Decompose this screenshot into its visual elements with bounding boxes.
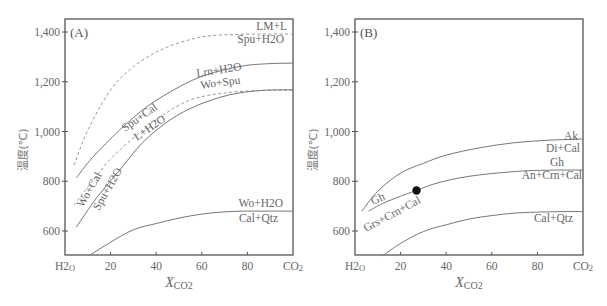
y-tick-label: 1,400 xyxy=(34,26,60,39)
x-symbol: X xyxy=(164,275,174,290)
x-symbol: X xyxy=(454,275,464,290)
panel-a-ticks: 6008001,0001,2001,400H2O20406080CO2 xyxy=(34,26,303,273)
panel-a: 6008001,0001,2001,400H2O20406080CO2 (A) … xyxy=(16,19,303,291)
x-tick-label: CO2 xyxy=(573,260,593,273)
label-gh-left: Gh xyxy=(369,190,387,207)
label-cal-qtz-a: Cal+Qtz xyxy=(239,212,278,224)
y-tick-label: 1,200 xyxy=(34,76,60,89)
x-tick-label: 40 xyxy=(150,260,162,272)
x-tick-label: 20 xyxy=(105,260,117,272)
y-tick-label: 1,000 xyxy=(324,126,350,139)
panel-b-label: (B) xyxy=(360,25,377,40)
label-cal-qtz-b: Cal+Qtz xyxy=(534,212,573,224)
panel-b-y-axis-label: 温度(℃) xyxy=(306,129,320,172)
x-tick-label: 20 xyxy=(395,260,407,272)
y-tick-label: 1,000 xyxy=(34,126,60,139)
x-tick-label: CO2 xyxy=(283,260,303,273)
panel-b-x-axis-label: XCO2 xyxy=(454,275,482,291)
y-tick-label: 600 xyxy=(333,225,351,237)
label-gh-right: Gh xyxy=(550,156,564,168)
x-tick-label: H2O xyxy=(345,260,365,273)
panel-b: 6008001,0001,2001,400H2O20406080CO2 (B) … xyxy=(306,19,593,291)
panel-a-y-axis-label: 温度(℃) xyxy=(16,129,30,172)
x-tick-label: 80 xyxy=(532,260,544,272)
label-lm-l: LM+L xyxy=(256,20,287,32)
label-ak: Ak xyxy=(564,130,578,142)
phase-diagram-figure: 6008001,0001,2001,400H2O20406080CO2 (A) … xyxy=(0,0,607,306)
y-tick-label: 800 xyxy=(333,175,351,187)
x-tick-label: 60 xyxy=(196,260,208,272)
label-spu-h2o-top: Spu+H2O xyxy=(237,33,284,46)
reaction-curve xyxy=(74,34,293,165)
x-tick-label: H2O xyxy=(55,260,75,273)
y-tick-label: 1,400 xyxy=(324,26,350,39)
panel-a-x-axis-label: XCO2 xyxy=(164,275,192,291)
y-tick-label: 800 xyxy=(43,175,61,187)
y-tick-label: 600 xyxy=(43,225,61,237)
x-tick-label: 80 xyxy=(242,260,254,272)
label-di-cal: Di+Cal xyxy=(546,142,580,154)
y-tick-label: 1,200 xyxy=(324,76,350,89)
x-tick-label: 60 xyxy=(486,260,498,272)
label-wo-h2o: Wo+H2O xyxy=(238,197,283,209)
x-subscript: CO2 xyxy=(174,280,193,291)
panel-a-label: (A) xyxy=(70,25,88,40)
label-an-crn-cal: An+Crn+Cal xyxy=(522,169,582,181)
x-tick-label: 40 xyxy=(440,260,452,272)
x-subscript: CO2 xyxy=(464,280,483,291)
